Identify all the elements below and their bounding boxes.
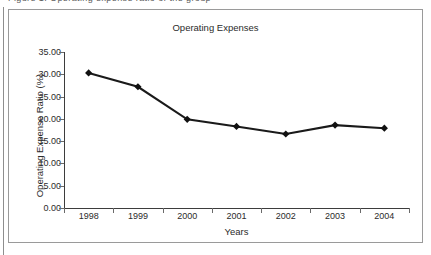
data-point-markers <box>85 69 388 137</box>
x-axis-tick-label: 2004 <box>359 211 409 221</box>
data-point-marker <box>331 121 338 128</box>
page-left-rule <box>3 7 4 255</box>
x-axis-tick-label: 2003 <box>310 211 360 221</box>
axes <box>64 52 409 209</box>
x-axis-tick-label: 2001 <box>212 211 262 221</box>
x-axis-tick-label: 2002 <box>261 211 311 221</box>
line-chart-plot <box>9 10 424 244</box>
x-axis-title: Years <box>64 226 409 237</box>
y-axis-ticks <box>59 53 64 209</box>
figure-caption-remnant: Figure 1. Operating expense ratio of the… <box>0 0 431 5</box>
data-point-marker <box>85 69 92 76</box>
x-axis-tick-label: 1999 <box>113 211 163 221</box>
x-axis-tick-label: 1998 <box>64 211 114 221</box>
x-axis-tick-label: 2000 <box>162 211 212 221</box>
chart-frame: Operating Expenses 0.005.0010.0015.0020.… <box>8 9 423 243</box>
y-axis-title: Operating Expense Ratio (%) <box>34 51 45 221</box>
data-point-marker <box>381 125 388 132</box>
data-point-marker <box>282 130 289 137</box>
data-point-marker <box>233 123 240 130</box>
figure-caption-text: Figure 1. Operating expense ratio of the… <box>8 0 211 3</box>
